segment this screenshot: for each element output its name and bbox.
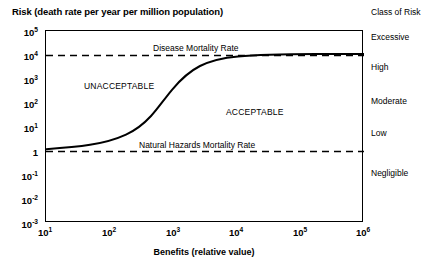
x-tick-label-1e5: 105 <box>293 228 307 238</box>
risk-acceptability-curve <box>46 54 364 149</box>
class-label-moderate: Moderate <box>371 97 407 106</box>
y-tick-label-1e-1: 10-1 <box>22 172 38 182</box>
class-of-risk-axis-title: Class of Risk <box>371 7 421 17</box>
risk-benefit-chart: Risk (death rate per year per million po… <box>0 0 430 269</box>
x-tick-label-1e6: 106 <box>356 228 370 238</box>
y-tick-label-1e1: 101 <box>24 124 38 134</box>
region-label-acceptable: ACCEPTABLE <box>226 108 284 117</box>
class-label-high: High <box>371 63 388 72</box>
x-tick-label-1e1: 101 <box>38 228 52 238</box>
plot-svg <box>46 31 364 223</box>
class-label-negligible: Negligible <box>371 169 408 178</box>
y-tick-label-1e5: 105 <box>24 28 38 38</box>
x-axis-title: Benefits (relative value) <box>45 247 363 257</box>
plot-area: Disease Mortality Rate Natural Hazards M… <box>45 30 363 222</box>
class-label-low: Low <box>371 129 387 138</box>
y-tick-label-1e-3: 10-3 <box>22 220 38 230</box>
y-tick-label-1e-2: 10-2 <box>22 196 38 206</box>
y-tick-label-1: 1 <box>33 148 38 158</box>
chart-title: Risk (death rate per year per million po… <box>12 6 223 17</box>
x-tick-label-1e2: 102 <box>102 228 116 238</box>
annotation-natural-hazards-mortality-rate: Natural Hazards Mortality Rate <box>139 141 255 150</box>
annotation-disease-mortality-rate: Disease Mortality Rate <box>153 44 239 53</box>
y-tick-label-1e4: 104 <box>24 52 38 62</box>
y-tick-label-1e2: 102 <box>24 100 38 110</box>
x-tick-label-1e4: 104 <box>229 228 243 238</box>
y-tick-label-1e3: 103 <box>24 76 38 86</box>
x-tick-label-1e3: 103 <box>166 228 180 238</box>
class-label-excessive: Excessive <box>371 33 409 42</box>
region-label-unacceptable: UNACCEPTABLE <box>84 82 154 91</box>
